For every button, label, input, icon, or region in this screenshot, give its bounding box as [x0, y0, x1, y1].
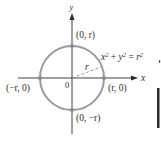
- origin-label: 0: [65, 80, 69, 90]
- y-axis-arrow-icon: [70, 13, 75, 20]
- circle-diagram: x y r 0 (0, r) (r, 0) (0, −r) (−r, 0) x2…: [0, 0, 161, 142]
- x-axis-arrow-icon: [131, 76, 138, 81]
- x-axis-label: x: [140, 73, 146, 83]
- point-top: [70, 44, 74, 48]
- edge-mark: [159, 60, 160, 63]
- point-bottom-label: (0, −r): [76, 113, 100, 124]
- point-left: [38, 76, 42, 80]
- point-bottom: [70, 108, 74, 112]
- point-right-label: (r, 0): [108, 83, 127, 94]
- edge-bar: [157, 88, 160, 128]
- radius-label: r: [85, 62, 89, 72]
- point-left-label: (−r, 0): [6, 83, 30, 94]
- circle-equation: x2 + y2 = r2: [100, 51, 144, 63]
- point-right: [102, 76, 106, 80]
- point-top-label: (0, r): [76, 30, 95, 41]
- y-axis-label: y: [69, 3, 74, 12]
